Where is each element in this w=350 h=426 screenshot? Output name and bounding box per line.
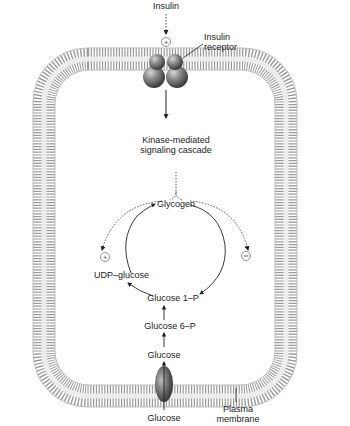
insulin-label: Insulin (153, 1, 179, 11)
glucose-1p-label: Glucose 1–P (147, 293, 199, 303)
svg-text:+: + (103, 253, 108, 262)
cascade-label: Kinase-mediated signaling cascade (140, 135, 212, 155)
cascade-bracket (170, 172, 182, 200)
insulin-receptor-label: Insulin receptor (204, 32, 237, 52)
glycogen-to-g1p-arrow (190, 205, 225, 294)
glucose-inside-label: Glucose (147, 350, 180, 360)
synthase-activation-arc (102, 201, 162, 250)
plus-icon: + (164, 38, 169, 47)
udp-to-glycogen-arrow (126, 204, 155, 273)
glucose-6p-label: Glucose 6–P (144, 321, 196, 331)
plasma-membrane-label: Plasma membrane (216, 404, 259, 424)
udp-glucose-label: UDP–glucose (94, 270, 149, 280)
glucose-outside-label: Glucose (147, 413, 180, 423)
glycogen-label: Glycogen (157, 199, 195, 209)
diagram-canvas: + + (0, 0, 350, 426)
